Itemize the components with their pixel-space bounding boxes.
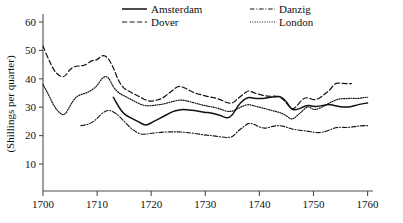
y-tick-label: 20 (25, 129, 37, 141)
x-tick-label: 1750 (302, 198, 325, 210)
legend-label: Dover (151, 16, 179, 28)
chart-figure: AmsterdamDanzigDoverLondon 1020304050601… (0, 0, 403, 223)
legend-label: Amsterdam (151, 3, 203, 15)
line-chart: AmsterdamDanzigDoverLondon 1020304050601… (0, 0, 403, 223)
x-tick-label: 1700 (32, 198, 55, 210)
legend-item-amsterdam[interactable]: Amsterdam (122, 3, 203, 15)
x-tick-label: 1740 (248, 198, 271, 210)
x-tick-label: 1760 (357, 198, 380, 210)
x-tick-label: 1730 (194, 198, 217, 210)
series-line-danzig (81, 111, 368, 138)
y-tick-label: 60 (25, 16, 37, 28)
x-tick-label: 1720 (140, 198, 163, 210)
legend-label: London (279, 16, 314, 28)
y-tick-label: 40 (25, 73, 37, 85)
legend-item-danzig[interactable]: Danzig (250, 3, 311, 15)
x-tick-label: 1710 (86, 198, 109, 210)
series-line-dover (43, 46, 351, 109)
y-tick-label: 50 (25, 44, 37, 56)
legend-item-london[interactable]: London (250, 16, 314, 28)
chart-series (43, 46, 368, 137)
legend-item-dover[interactable]: Dover (122, 16, 179, 28)
chart-legend: AmsterdamDanzigDoverLondon (122, 3, 314, 28)
y-tick-label: 10 (25, 158, 37, 170)
y-axis-title: (Shillings per quarter) (4, 55, 17, 152)
y-tick-label: 30 (25, 101, 37, 113)
legend-label: Danzig (279, 3, 311, 15)
